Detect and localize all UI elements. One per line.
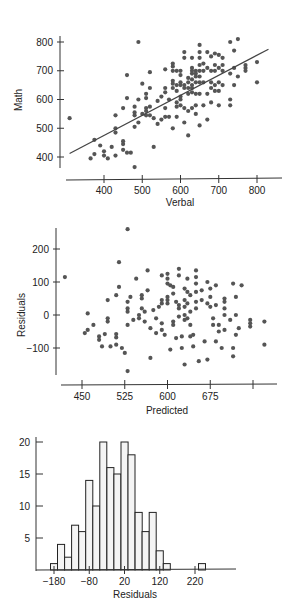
histogram-bar — [72, 525, 79, 570]
data-point — [194, 268, 198, 272]
data-point — [213, 63, 217, 67]
data-point — [163, 333, 167, 337]
data-point — [234, 333, 238, 337]
data-point — [220, 346, 224, 350]
x-tick-label: 675 — [202, 391, 219, 402]
x-tick-label: −180 — [43, 576, 66, 587]
histogram-bar — [142, 532, 149, 570]
data-point — [174, 300, 178, 304]
histogram-bar — [121, 442, 128, 570]
regression-line — [70, 49, 269, 153]
histogram-residuals: 5101520 −180−8020120220 Residuals — [19, 437, 236, 601]
data-point — [214, 283, 218, 287]
x-tick-label: 120 — [151, 576, 168, 587]
data-point — [200, 288, 204, 292]
data-point — [255, 80, 259, 84]
data-point — [148, 356, 152, 360]
data-point — [190, 72, 194, 76]
data-point — [205, 118, 209, 122]
scatter-points — [63, 227, 267, 373]
data-point — [121, 106, 125, 110]
data-point — [214, 339, 218, 343]
histogram-bar — [65, 557, 72, 570]
data-point — [186, 86, 190, 90]
data-point — [143, 310, 147, 314]
data-point — [177, 315, 181, 319]
histogram-bars — [51, 442, 206, 570]
data-point — [209, 69, 213, 73]
data-point — [203, 339, 207, 343]
data-point — [156, 99, 160, 103]
y-tick-label: 600 — [36, 94, 53, 105]
data-point — [156, 122, 160, 126]
data-point — [171, 126, 175, 130]
data-point — [186, 109, 190, 113]
histogram-bar — [114, 474, 121, 570]
data-point — [205, 92, 209, 96]
data-point — [163, 86, 167, 90]
data-point — [194, 306, 198, 310]
data-point — [125, 73, 129, 77]
data-point — [152, 116, 156, 120]
data-point — [214, 303, 218, 307]
data-point — [198, 69, 202, 73]
data-point — [211, 316, 215, 320]
data-point — [160, 301, 164, 305]
data-point — [146, 288, 150, 292]
data-point — [185, 290, 189, 294]
data-point — [126, 300, 130, 304]
data-point — [205, 280, 209, 284]
data-point — [194, 92, 198, 96]
data-point — [194, 282, 198, 286]
data-point — [171, 285, 175, 289]
data-point — [186, 80, 190, 84]
data-point — [154, 331, 158, 335]
data-point — [194, 103, 198, 107]
data-point — [190, 90, 194, 94]
histogram-bar — [100, 442, 107, 570]
data-point — [188, 293, 192, 297]
y-tick-label: 0 — [43, 310, 49, 321]
histogram-bar — [149, 512, 156, 570]
data-point — [121, 148, 125, 152]
data-point — [133, 105, 137, 109]
data-point — [175, 105, 179, 109]
data-point — [182, 106, 186, 110]
data-point — [106, 320, 110, 324]
data-point — [178, 69, 182, 73]
data-point — [190, 56, 194, 60]
data-point — [180, 334, 184, 338]
data-point — [140, 296, 144, 300]
data-point — [198, 50, 202, 54]
x-tick-label: 800 — [249, 185, 266, 196]
data-point — [185, 301, 189, 305]
x-tick-label: 525 — [116, 391, 133, 402]
data-point — [125, 96, 129, 100]
scatter-math-vs-verbal: 400500600700800 400500600700800 Verbal M… — [13, 36, 282, 208]
histogram-bar — [79, 532, 86, 570]
data-point — [209, 86, 213, 90]
data-point — [234, 295, 238, 299]
data-point — [171, 69, 175, 73]
x-tick-label: 600 — [159, 391, 176, 402]
x-tick-label: 450 — [74, 391, 91, 402]
data-point — [121, 142, 125, 146]
data-point — [114, 335, 118, 339]
data-point — [217, 329, 221, 333]
y-tick-label: 5 — [24, 533, 30, 544]
data-point — [222, 328, 226, 332]
data-point — [236, 74, 240, 78]
data-point — [100, 344, 104, 348]
data-point — [231, 354, 235, 358]
data-point — [113, 154, 117, 158]
data-point — [126, 310, 130, 314]
data-point — [228, 40, 232, 44]
data-point — [198, 92, 202, 96]
y-tick-label: 500 — [36, 123, 53, 134]
data-point — [171, 64, 175, 68]
data-point — [129, 151, 133, 155]
x-tick-label: 400 — [96, 185, 113, 196]
y-tick-label: 800 — [36, 37, 53, 48]
data-point — [114, 293, 118, 297]
data-point — [114, 343, 118, 347]
